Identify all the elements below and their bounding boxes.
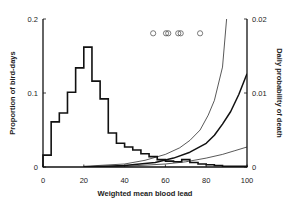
x-axis-title: Weighted mean blood lead <box>98 189 193 198</box>
left-y-axis-title: Proportion of bird-days <box>8 51 17 134</box>
left-y-tick-label: 0.2 <box>28 15 38 24</box>
x-tick-label: 60 <box>161 176 169 185</box>
right-y-tick-label: 0 <box>252 163 256 172</box>
open-circle-markers <box>151 31 203 36</box>
histogram-outline <box>43 47 247 167</box>
right-y-tick-label: 0.02 <box>252 15 267 24</box>
x-tick-label: 0 <box>41 176 45 185</box>
open-circle-marker <box>151 31 156 36</box>
x-tick-label: 40 <box>120 176 128 185</box>
left-y-tick-label: 0.1 <box>28 89 38 98</box>
left-y-tick-label: 0 <box>34 163 38 172</box>
open-circle-marker <box>197 31 202 36</box>
right-y-axis-title: Daily probability of death <box>275 48 284 138</box>
chart: 02040608010000.10.200.010.02 Weighted me… <box>0 0 295 208</box>
histogram-series <box>43 47 247 167</box>
right-y-tick-label: 0.01 <box>252 89 267 98</box>
x-tick-label: 100 <box>241 176 254 185</box>
x-tick-label: 20 <box>80 176 88 185</box>
x-tick-label: 80 <box>202 176 210 185</box>
curve-3 <box>84 147 247 167</box>
mortality-curves <box>84 19 247 167</box>
